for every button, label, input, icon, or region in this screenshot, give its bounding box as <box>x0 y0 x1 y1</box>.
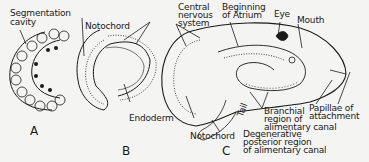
label-segmentation-cavity-2: cavity <box>10 18 36 27</box>
label-cns-3: system <box>178 19 209 28</box>
panel-a-cells <box>10 29 69 111</box>
label-branchial-3: alimentary canal <box>264 123 336 132</box>
label-notochord-b: Notochord <box>85 22 130 31</box>
panel-label-c: C <box>222 145 230 157</box>
panel-label-b: B <box>122 145 130 157</box>
label-mouth: Mouth <box>297 16 324 25</box>
label-atrium-2: of Atrium <box>222 11 262 20</box>
label-endoderm: Endoderm <box>129 114 174 123</box>
label-notochord-c: Notochord <box>190 132 235 141</box>
panel-label-a: A <box>30 125 38 137</box>
label-eye: Eye <box>274 10 290 19</box>
label-papillae-2: attachment <box>309 112 359 121</box>
panel-b-embryo <box>77 18 156 110</box>
embryo-diagram: Segmentation cavity Notochord Central ne… <box>0 0 369 162</box>
label-degenerative-3: of alimentary canal <box>243 146 326 155</box>
